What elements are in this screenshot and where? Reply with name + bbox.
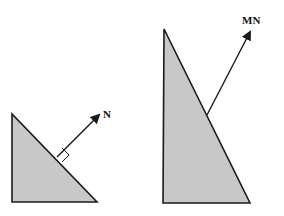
normal-force-arrow (57, 115, 99, 157)
left-incline-figure: N (12, 108, 111, 202)
left-triangle-block (12, 114, 97, 202)
scaled-normal-force-label: MN (242, 14, 260, 26)
normal-force-label: N (103, 108, 111, 120)
scaled-normal-force-arrow (207, 32, 250, 115)
right-triangle-block (163, 29, 250, 203)
diagram-canvas: N MN (0, 0, 284, 216)
right-incline-figure: MN (163, 14, 260, 203)
